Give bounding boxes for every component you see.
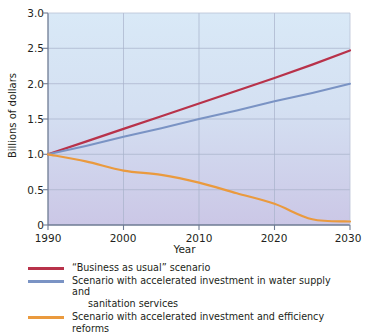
x-axis-ticks [48, 225, 350, 230]
legend-label-accelerated-investment-line1: Scenario with accelerated investment in … [72, 275, 331, 298]
legend-item-accelerated-investment: Scenario with accelerated investment in … [0, 275, 369, 310]
x-tick-label-2000: 2000 [110, 233, 137, 244]
chart-legend: “Business as usual” scenario Scenario wi… [0, 262, 369, 335]
x-tick-label-2010: 2010 [186, 233, 213, 244]
legend-label-efficiency-reforms: Scenario with accelerated investment and… [72, 311, 347, 334]
legend-swatch-efficiency-reforms [28, 316, 64, 319]
legend-item-business-as-usual: “Business as usual” scenario [0, 262, 369, 274]
y-axis-ticks [43, 13, 48, 225]
legend-label-business-as-usual: “Business as usual” scenario [72, 262, 210, 274]
x-axis-title: Year [0, 243, 369, 255]
legend-swatch-business-as-usual [28, 267, 64, 270]
legend-label-accelerated-investment-line2: sanitation services [72, 298, 347, 310]
legend-item-efficiency-reforms: Scenario with accelerated investment and… [0, 311, 369, 334]
x-tick-label-2020: 2020 [261, 233, 288, 244]
x-tick-label-2030: 2030 [335, 233, 362, 244]
legend-swatch-accelerated-investment [28, 280, 64, 283]
x-tick-label-1990: 1990 [35, 233, 62, 244]
legend-label-accelerated-investment: Scenario with accelerated investment in … [72, 275, 347, 310]
